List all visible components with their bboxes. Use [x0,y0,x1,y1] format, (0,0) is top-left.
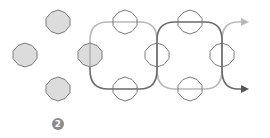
braid-diagram: 2 [0,0,270,138]
step-badge: 2 [52,118,64,130]
step-badge-label: 2 [55,119,61,129]
standalone-node-top [46,10,70,34]
standalone-node-bottom [46,77,70,101]
diagram-canvas: 2 [0,0,270,138]
standalone-node-middle [13,43,37,67]
